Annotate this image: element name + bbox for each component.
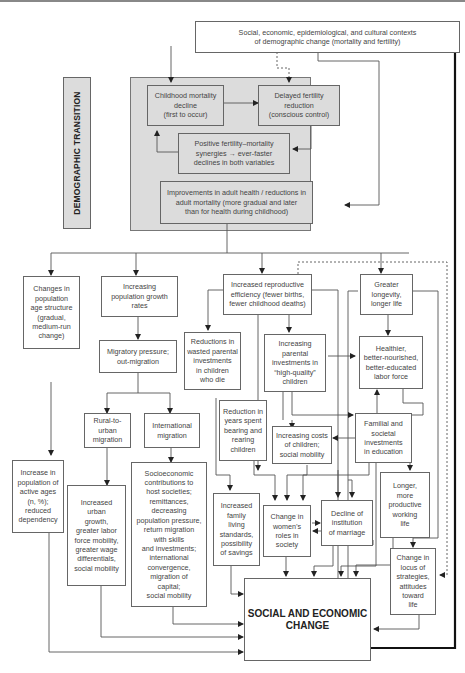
node-reproductive-efficiency: Increased reproductive efficiency (fewer… <box>223 274 312 315</box>
node-parental-investments: Increasing parental investments in “high… <box>264 334 326 392</box>
node-social-economic-change: SOCIAL AND ECONOMIC CHANGE <box>244 578 371 661</box>
node-working-life: Longer, more productive working life <box>380 472 430 538</box>
node-womens-roles: Change in women’s roles in society <box>263 505 311 557</box>
node-living-standards: Increased family living standards, possi… <box>213 493 260 566</box>
node-synergies: Positive fertility–mortality synergies →… <box>178 133 290 174</box>
node-delayed-fertility: Delayed fertility reduction (conscious c… <box>258 85 340 126</box>
node-adult-health: Improvements in adult health / reduction… <box>160 181 313 224</box>
node-labor-force: Healthier, better-nourished, better-educ… <box>359 336 423 389</box>
node-socioeconomic-contributions: Socioeconomic contributions to host soci… <box>131 462 207 607</box>
node-urban-growth: Increased urban growth, greater labor fo… <box>67 485 126 586</box>
node-international-migration: International migration <box>144 413 200 448</box>
node-growth-rates: Increasing population growth rates <box>101 276 178 317</box>
node-marriage: Decline of institution of marriage <box>321 500 373 546</box>
node-longevity: Greater longevity, longer life <box>360 274 413 315</box>
node-contexts: Social, economic, epidemiological, and c… <box>195 21 460 53</box>
node-active-ages: Increase in population of active ages (n… <box>12 460 64 533</box>
node-wasted-investments: Reductions in wasted parental investment… <box>184 332 241 390</box>
node-years-bearing: Reduction in years spent bearing and rea… <box>219 400 267 461</box>
node-childhood-mortality: Childhood mortality decline (first to oc… <box>147 85 224 126</box>
node-age-structure: Changes in population age structure (gra… <box>23 276 80 349</box>
node-costs-children: Increasing costs of children; social mob… <box>272 426 332 464</box>
node-migratory-pressure: Migratory pressure; out-migration <box>99 340 177 373</box>
node-rural-urban: Rural-to- urban migration <box>84 413 131 448</box>
node-locus-strategies: Change in locus of strategies, attitudes… <box>390 548 436 615</box>
node-familial-investments: Familial and societal investments in edu… <box>355 413 412 463</box>
